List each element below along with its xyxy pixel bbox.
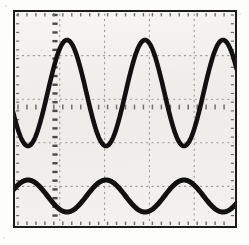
oscilloscope-screenshot: Dual-trace oscilloscope sine waveforms	[0, 0, 249, 245]
page-title: Dual-trace oscilloscope sine waveforms	[0, 21, 1, 22]
waveform-traces	[15, 12, 235, 226]
waveform-trace-channel-2	[15, 180, 235, 212]
crt-frame	[13, 10, 237, 228]
crt-screen	[15, 12, 235, 226]
waveform-trace-channel-1	[15, 40, 235, 146]
